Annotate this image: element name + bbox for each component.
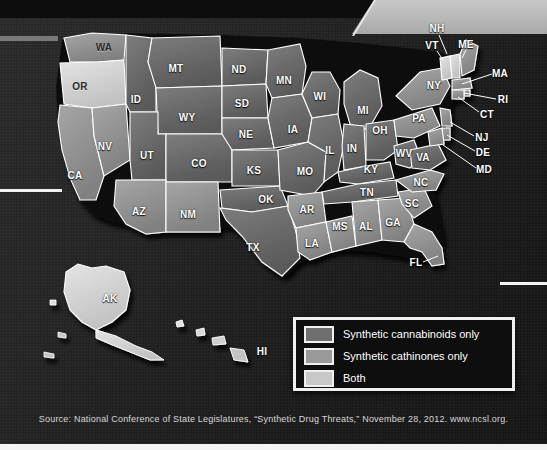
state-AL	[352, 200, 382, 246]
state-AZ	[114, 180, 166, 234]
state-OR	[60, 60, 126, 108]
state-CO	[166, 134, 232, 182]
state-WA	[64, 33, 126, 62]
state-TX	[220, 206, 300, 276]
alaska-panhandle	[96, 330, 164, 360]
state-IN	[342, 124, 366, 170]
legend-item: Synthetic cathinones only	[304, 346, 512, 366]
legend-swatch	[304, 370, 334, 387]
alaska-group	[44, 264, 164, 360]
state-MA	[452, 78, 472, 90]
state-AK	[64, 264, 130, 330]
state-WY	[156, 86, 222, 134]
divider-rule-bottom	[0, 444, 547, 450]
state-RI	[464, 90, 470, 96]
legend-item: Both	[304, 368, 512, 388]
hawaii-group	[176, 320, 248, 362]
state-NM	[166, 182, 220, 232]
state-NH	[450, 54, 460, 78]
legend-box: Synthetic cannabinoids onlySynthetic cat…	[293, 317, 515, 391]
alaska-islands	[44, 300, 66, 358]
state-ND	[222, 48, 268, 86]
legend-swatch	[304, 326, 334, 343]
legend-label: Synthetic cathinones only	[343, 351, 468, 362]
state-MS	[326, 216, 356, 252]
state-MN	[266, 44, 306, 98]
state-CT	[452, 90, 464, 99]
state-NJ	[440, 108, 452, 126]
source-caption: Source: National Conference of State Leg…	[0, 414, 547, 424]
state-MT	[148, 36, 222, 88]
state-HI	[176, 320, 248, 362]
state-ME	[460, 40, 478, 76]
state-MO	[278, 142, 326, 196]
mainland-group	[56, 33, 478, 276]
state-OH	[366, 120, 398, 160]
map-screenshot: WAORCANVIDMTWYUTCOAZNMNDSDNEKSOKTXMNIAMO…	[0, 0, 547, 450]
legend-label: Synthetic cannabinoids only	[343, 329, 479, 340]
state-KS	[232, 150, 280, 186]
legend-label: Both	[343, 373, 366, 384]
legend-swatch	[304, 348, 334, 365]
legend-item: Synthetic cannabinoids only	[304, 324, 512, 344]
state-NE	[222, 118, 274, 150]
state-SD	[222, 84, 268, 118]
